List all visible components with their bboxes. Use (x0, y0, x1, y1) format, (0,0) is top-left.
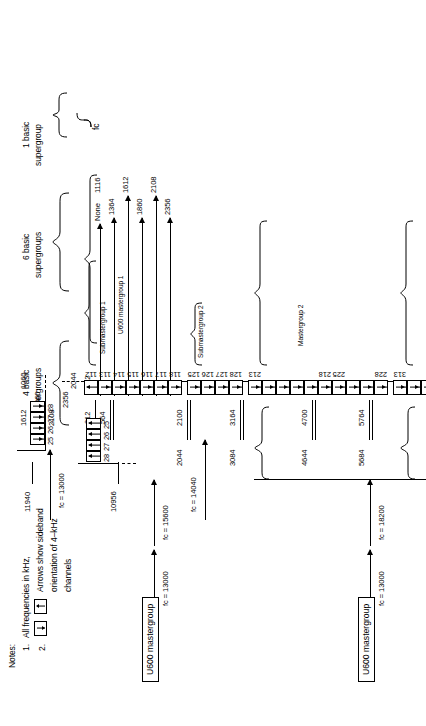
cell-sg-114[interactable] (112, 380, 126, 395)
spectrum-label-4644: 4644 (301, 450, 309, 467)
label-1-basic-supergroup-line1: 1 basic (22, 122, 31, 148)
carrier-label-fc-18200: fᴄ = 18200 (378, 505, 386, 540)
notes-item-2-number: 2. (38, 644, 47, 651)
main-axis-dashed-extension (62, 381, 84, 382)
label-6-basic-supergroups-line1: 6 basic (22, 234, 31, 260)
cell-sg-118[interactable] (168, 380, 182, 395)
brace-basic-supergroup-fc (76, 112, 92, 142)
cell-sg-116[interactable] (140, 380, 154, 395)
u600-mastergroup-box-upper[interactable]: U600 mastergroup (358, 597, 375, 682)
bracket-u600-mastergroup-1 (84, 174, 98, 344)
label-1-basic-supergroup-line2: supergroup (34, 124, 43, 166)
notes-item-1-number: 1. (22, 644, 31, 651)
sg-number-26: 26 (47, 426, 54, 434)
cell-sg-26[interactable] (30, 423, 45, 434)
cell-sg-mastergroup-3-1[interactable] (407, 380, 421, 395)
cell-sg-125[interactable] (187, 380, 201, 395)
notes-heading: Notes: (8, 644, 17, 668)
flow-arrow-fc-18200 (370, 480, 371, 546)
block4-freq-1612: 1612 (20, 410, 28, 427)
tick-10956 (118, 462, 119, 484)
cell-sg-112[interactable] (84, 380, 98, 395)
cell-sg-mastergroup-2-3[interactable] (290, 380, 304, 395)
tick-3164 (240, 400, 241, 440)
flow-arrow-fc-14040 (205, 440, 206, 520)
spectrum-label-2044: 2044 (176, 450, 184, 467)
notes-item-2-line-1: Arrows show sideband (36, 508, 45, 592)
bracket-label-submastergroup-1: Submastergroup 1 (100, 301, 107, 354)
sg-number-27-translated: 27 (103, 443, 110, 451)
cell-sg-128[interactable] (229, 380, 243, 395)
flow-arrow-fc-13000-sg (50, 450, 51, 520)
cell-sg-313[interactable] (393, 380, 407, 395)
carrier-label-fc-13000-upper: fᴄ = 13000 (378, 571, 386, 606)
label-6-basic-supergroups-line2: supergroups (34, 232, 43, 278)
sg-number-114: 114 (113, 371, 125, 378)
freq-label-2108: 2108 (150, 177, 158, 194)
sg-number-228: 228 (375, 371, 387, 378)
sg-number-28: 28 (47, 404, 54, 412)
tick-552 (113, 400, 114, 440)
cell-sg-mastergroup-2-7[interactable] (346, 380, 360, 395)
fc-basic-label: fᴄ (92, 124, 101, 130)
notes-item-2-line-2: orientation of 4–kHz (50, 518, 59, 592)
freq-label-2356: 2356 (164, 199, 172, 216)
tick-2044 (190, 400, 191, 440)
cell-sg-27-translated[interactable] (86, 440, 101, 451)
tick-5764 (369, 400, 370, 440)
sg-number-116: 116 (141, 371, 153, 378)
cell-sg-117[interactable] (154, 380, 168, 395)
carrier-label-fc-14040: fᴄ = 14040 (190, 477, 198, 512)
cell-sg-213[interactable] (248, 380, 262, 395)
sg-number-126: 126 (202, 371, 214, 378)
sg-number-218: 218 (319, 371, 331, 378)
sg-number-125: 125 (188, 371, 200, 378)
left-rail-four-supergroup (17, 450, 45, 451)
notes-item-2-line-3: channels (64, 559, 73, 592)
cell-sg-28[interactable] (30, 401, 45, 412)
fdm-hierarchy-figure: Notes: 1. All frequencies in kHz, 2. Arr… (0, 0, 426, 726)
cell-sg-228[interactable] (374, 380, 388, 395)
sg-number-115: 115 (127, 371, 139, 378)
translated-cell-row (86, 416, 101, 462)
bracket-label-u600-mastergroup-1: U600 mastergroup 1 (118, 276, 125, 334)
arrow-up-box-icon (34, 599, 47, 614)
brace-1-basic-supergroup (52, 92, 68, 138)
cell-sg-113[interactable] (98, 380, 112, 395)
cell-sg-28-translated[interactable] (86, 451, 101, 462)
cell-sg-115[interactable] (126, 380, 140, 395)
carrier-label-fc-15600: fᴄ = 15600 (162, 505, 170, 540)
four-supergroup-cell-row (30, 399, 45, 445)
cell-sg-mastergroup-2-4[interactable] (304, 380, 318, 395)
cell-sg-126[interactable] (201, 380, 215, 395)
tick-3084 (243, 400, 244, 440)
notes-item-1-text: All frequencies in kHz, (22, 556, 31, 638)
sg-number-113: 113 (99, 371, 111, 378)
translated-freq-10956: 10956 (110, 491, 118, 512)
cell-sg-mastergroup-2-1[interactable] (262, 380, 276, 395)
cell-sg-127[interactable] (215, 380, 229, 395)
cell-sg-27[interactable] (30, 412, 45, 423)
rail-translated-block (78, 463, 118, 464)
dashed-axis-four-supergroup (45, 375, 46, 393)
carrier-label-fc-13000-sg: fᴄ = 13000 (58, 473, 66, 508)
cell-sg-26-translated[interactable] (86, 429, 101, 440)
spectrum-label-3164: 3164 (229, 410, 237, 427)
u600-mastergroup-box-lower[interactable]: U600 mastergroup (142, 597, 159, 682)
tick-5684 (372, 400, 373, 440)
supergroup-cell-column (84, 380, 426, 395)
connector-brace-mastergroup-3 (400, 406, 416, 480)
cell-sg-225[interactable] (332, 380, 346, 395)
tick-4700 (312, 400, 313, 440)
cell-sg-25-translated[interactable] (86, 418, 101, 429)
spectrum-label-4700: 4700 (301, 410, 309, 427)
cell-sg-mastergroup-2-2[interactable] (276, 380, 290, 395)
cell-sg-mastergroup-3-2[interactable] (421, 380, 426, 395)
bracket-mastergroup-3 (400, 220, 414, 366)
cell-sg-218[interactable] (318, 380, 332, 395)
cell-sg-25[interactable] (30, 434, 45, 445)
spectrum-label-5764: 5764 (358, 410, 366, 427)
spectrum-label-2100: 2100 (176, 410, 184, 427)
sg-number-117: 117 (155, 371, 167, 378)
cell-sg-mastergroup-2-8[interactable] (360, 380, 374, 395)
